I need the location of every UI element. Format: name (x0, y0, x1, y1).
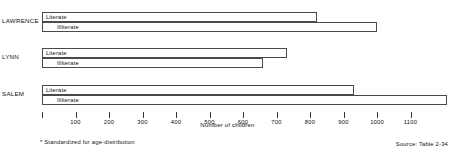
footnote: * Standardized for age-distribution (40, 139, 135, 145)
bar-label: Literate (46, 50, 67, 56)
bar-illiterate: Illiterate (42, 95, 447, 105)
x-tick (411, 112, 412, 118)
bar-label: Illiterate (57, 97, 79, 103)
chart-figure: LAWRENCELiterateIlliterateLYNNLiterateIl… (0, 0, 455, 154)
x-tick (42, 112, 43, 118)
group-label: LAWRENCE (2, 17, 40, 24)
x-tick (243, 112, 244, 118)
group-label: SALEM (2, 90, 40, 97)
x-tick (344, 112, 345, 118)
x-tick (210, 112, 211, 118)
bar-label: Literate (46, 87, 67, 93)
bar-label: Illiterate (57, 60, 79, 66)
x-tick (310, 112, 311, 118)
group-label: LYNN (2, 53, 40, 60)
bar-label: Illiterate (57, 24, 79, 30)
source-note: Source: Table 2-34 (396, 141, 448, 147)
bar-literate: Literate (42, 12, 317, 22)
x-tick (76, 112, 77, 118)
x-tick (143, 112, 144, 118)
x-tick (277, 112, 278, 118)
bar-label: Literate (46, 14, 67, 20)
bar-literate: Literate (42, 48, 287, 58)
bar-literate: Literate (42, 85, 354, 95)
x-tick (176, 112, 177, 118)
x-axis-label: Number of children (0, 122, 455, 128)
bar-illiterate: Illiterate (42, 58, 263, 68)
bar-illiterate: Illiterate (42, 22, 377, 32)
x-tick (109, 112, 110, 118)
x-tick (377, 112, 378, 118)
